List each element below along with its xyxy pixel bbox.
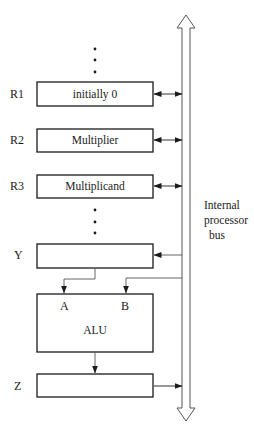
ellipsis-middle [94, 209, 97, 235]
alu-input-b-label: B [121, 299, 129, 313]
register-r2-label: R2 [10, 133, 24, 147]
ellipsis-top [94, 48, 97, 74]
register-y-label: Y [14, 248, 23, 262]
bus-label-line-2: processor [204, 213, 248, 228]
y-to-alu-a-link [64, 268, 95, 293]
bus-label: Internal processor bus [204, 198, 248, 243]
internal-bus-arrow [177, 15, 195, 421]
register-y-box [37, 244, 153, 268]
alu-input-a-label: A [60, 299, 69, 313]
bus-label-line-3: bus [204, 228, 248, 243]
register-z-label: Z [14, 379, 21, 393]
register-r1-label: R1 [10, 87, 24, 101]
bus-to-alu-b-link [126, 278, 182, 293]
alu-label: ALU [37, 323, 153, 337]
register-r1-content: initially 0 [37, 87, 153, 101]
register-r3-label: R3 [10, 179, 24, 193]
register-z-box [37, 374, 153, 397]
register-r3-content: Multiplicand [37, 179, 153, 193]
register-r2-content: Multiplier [37, 133, 153, 147]
bus-label-line-1: Internal [204, 198, 248, 213]
